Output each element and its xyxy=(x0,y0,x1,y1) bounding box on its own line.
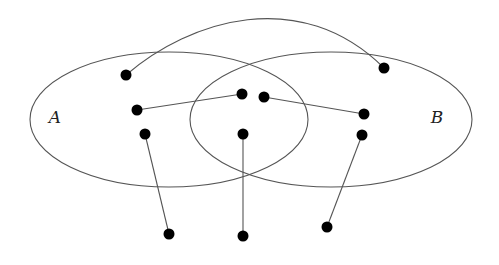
edge-a3-o1 xyxy=(145,134,169,234)
venn-diagram: AB xyxy=(0,0,499,265)
labels-layer: AB xyxy=(47,107,443,127)
edges-layer xyxy=(126,19,384,236)
node-o2 xyxy=(238,231,249,242)
set-a-ellipse xyxy=(30,52,308,187)
node-ab2 xyxy=(259,92,270,103)
set-b-label: B xyxy=(430,107,444,127)
edge-a2-ab1 xyxy=(137,94,242,110)
node-o3 xyxy=(322,222,333,233)
diagram-svg: AB xyxy=(0,0,499,265)
node-b3 xyxy=(357,130,368,141)
set-b-ellipse xyxy=(190,52,472,187)
edge-ab2-b2 xyxy=(264,97,364,114)
edge-b3-o3 xyxy=(327,135,362,227)
set-a-label: A xyxy=(47,107,61,127)
node-b1 xyxy=(379,63,390,74)
node-b2 xyxy=(359,109,370,120)
nodes-layer xyxy=(121,63,390,242)
sets-layer xyxy=(30,52,472,187)
node-a3 xyxy=(140,129,151,140)
node-a2 xyxy=(132,105,143,116)
node-ab3 xyxy=(238,129,249,140)
node-o1 xyxy=(164,229,175,240)
node-ab1 xyxy=(237,89,248,100)
node-a1 xyxy=(121,70,132,81)
